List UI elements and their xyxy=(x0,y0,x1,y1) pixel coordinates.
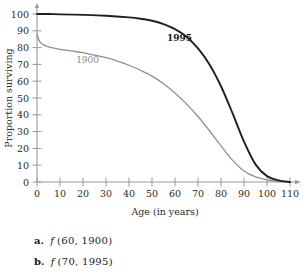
question-label: a. xyxy=(34,235,44,246)
y-tick-label: 80 xyxy=(17,42,29,53)
x-axis-tick-labels: 0 10 20 30 40 50 60 70 80 90 100 110 xyxy=(34,188,299,199)
list-item: a. f (60, 1900) xyxy=(0,230,305,251)
y-tick-label: 20 xyxy=(17,143,29,154)
function-args: (60, 1900) xyxy=(57,235,112,246)
function-args: (70, 1995) xyxy=(58,256,113,267)
y-axis-arrowhead xyxy=(35,3,39,8)
y-tick-label: 40 xyxy=(17,109,29,120)
x-tick-label: 10 xyxy=(54,188,66,199)
chart-svg: 100 90 80 70 60 50 40 30 20 10 0 xyxy=(0,0,305,228)
x-tick-label: 80 xyxy=(215,188,227,199)
y-tick-label: 10 xyxy=(17,160,29,171)
y-tick-label: 50 xyxy=(17,93,29,104)
x-tick-label: 110 xyxy=(281,188,299,199)
x-tick-label: 30 xyxy=(100,188,112,199)
function-name: f xyxy=(50,235,54,246)
x-axis-arrowhead xyxy=(295,180,301,184)
x-tick-label: 0 xyxy=(34,188,40,199)
x-tick-label: 60 xyxy=(169,188,181,199)
y-tick-label: 60 xyxy=(17,76,29,87)
x-tick-label: 50 xyxy=(146,188,158,199)
question-label: b. xyxy=(34,256,44,267)
y-tick-label: 90 xyxy=(17,25,29,36)
series-label-1995: 1995 xyxy=(167,33,192,43)
x-tick-label: 100 xyxy=(258,188,276,199)
question-list: a. f (60, 1900) b. f (70, 1995) xyxy=(0,230,305,272)
function-name: f xyxy=(51,256,55,267)
y-tick-label: 30 xyxy=(17,126,29,137)
x-tick-label: 70 xyxy=(192,188,204,199)
y-tick-label: 0 xyxy=(23,177,29,188)
x-tick-label: 90 xyxy=(238,188,250,199)
y-tick-label: 100 xyxy=(11,9,29,20)
x-tick-label: 20 xyxy=(77,188,89,199)
y-axis-title: Proportion surviving xyxy=(3,48,14,147)
series-label-1900: 1900 xyxy=(76,55,99,65)
list-item: b. f (70, 1995) xyxy=(0,251,305,272)
x-tick-label: 40 xyxy=(123,188,135,199)
y-tick-label: 70 xyxy=(17,59,29,70)
series-line-1995 xyxy=(37,14,290,182)
x-axis-title: Age (in years) xyxy=(130,206,198,217)
survival-curve-chart: 100 90 80 70 60 50 40 30 20 10 0 xyxy=(0,0,305,228)
